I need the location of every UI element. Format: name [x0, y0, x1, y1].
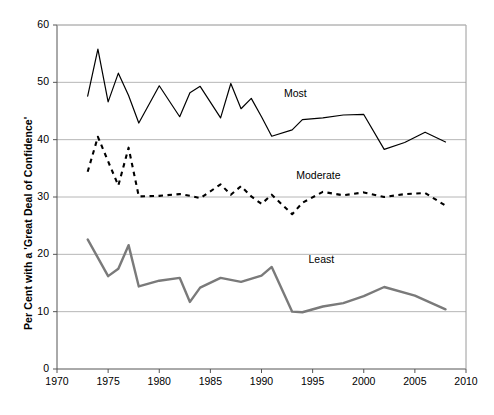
series-label-moderate: Moderate	[296, 169, 340, 181]
x-tick-label: 2000	[344, 375, 384, 387]
y-tick-label: 50	[25, 75, 49, 87]
y-tick-label: 0	[25, 362, 49, 374]
chart-container: Per Cent with a 'Great Deal of Confidenc…	[0, 0, 494, 415]
y-tick-label: 30	[25, 190, 49, 202]
y-tick-label: 40	[25, 133, 49, 145]
tick-marks	[53, 25, 466, 373]
y-tick-label: 60	[25, 18, 49, 30]
x-tick-label: 1985	[190, 375, 230, 387]
chart-plot-area	[0, 0, 494, 415]
x-tick-label: 2005	[395, 375, 435, 387]
series-label-most: Most	[284, 87, 307, 99]
x-tick-label: 1990	[242, 375, 282, 387]
x-tick-label: 1975	[88, 375, 128, 387]
x-tick-label: 1980	[139, 375, 179, 387]
series-line-moderate	[88, 137, 446, 214]
series-line-least	[88, 239, 446, 312]
y-tick-label: 20	[25, 247, 49, 259]
x-tick-label: 1995	[293, 375, 333, 387]
series-line-most	[88, 49, 446, 149]
x-tick-label: 2010	[446, 375, 486, 387]
data-series	[88, 49, 446, 312]
series-label-least: Least	[309, 253, 335, 265]
x-tick-label: 1970	[37, 375, 77, 387]
y-tick-label: 10	[25, 305, 49, 317]
y-axis-title: Per Cent with a 'Great Deal of Confidenc…	[22, 117, 34, 330]
